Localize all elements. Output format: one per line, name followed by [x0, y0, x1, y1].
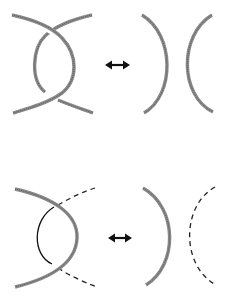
dashed-left-paren: [190, 187, 216, 285]
arc-left-paren-core: [142, 15, 167, 113]
top-double-arrow-icon: [105, 61, 130, 70]
dashed-top: [58, 188, 95, 205]
dashed-bottom: [58, 268, 97, 287]
top-left-figure: [12, 15, 93, 113]
thin-arc: [37, 207, 54, 264]
diagram-canvas: ↔ ↔: [0, 0, 227, 308]
bottom-right-figure: [143, 187, 216, 285]
thick-right-paren-core: [143, 188, 170, 285]
arc-right-paren-core: [187, 15, 213, 112]
arc-right-paren: [187, 15, 213, 112]
thick-right-paren: [143, 188, 170, 285]
bottom-double-arrow-icon: [108, 234, 132, 243]
arc-left-paren: [142, 15, 167, 113]
diagram-svg: [0, 0, 227, 308]
thick-arc-core: [15, 189, 77, 287]
top-right-figure: [142, 15, 213, 113]
thick-arc: [15, 189, 77, 287]
bottom-left-figure: [15, 188, 97, 287]
